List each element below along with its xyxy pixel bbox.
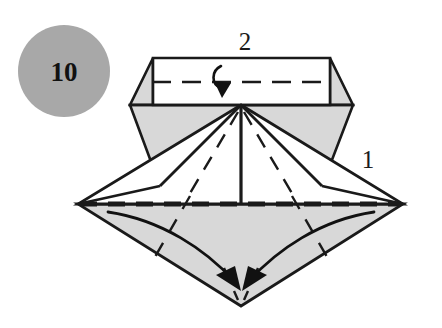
top-left-corner-triangle [130,58,153,105]
fold-reference-label-2: 2 [239,28,252,55]
top-right-corner-triangle [330,58,353,105]
origami-diagram-root: 10 [0,0,442,328]
lower-gray-diamond [78,204,403,306]
fold-reference-label-1: 1 [362,146,375,173]
origami-illustration: 10 [0,0,442,328]
origami-model [78,58,403,306]
step-number-label: 10 [51,57,78,87]
step-number-badge-group: 10 [18,25,110,117]
